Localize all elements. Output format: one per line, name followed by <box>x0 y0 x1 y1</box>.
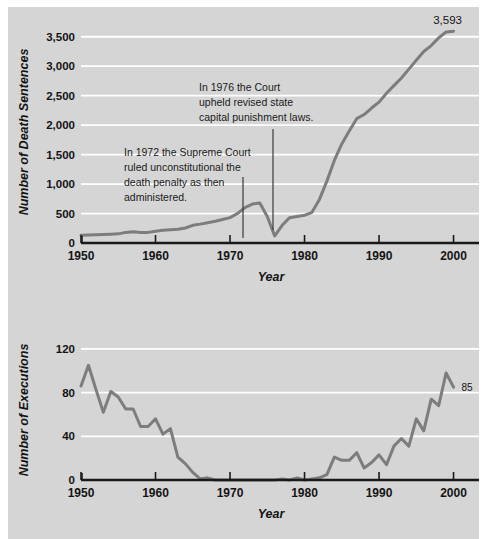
figure-page: 05001,0001,5002,0002,5003,0003,500Number… <box>0 0 490 539</box>
figure-background <box>8 7 479 539</box>
